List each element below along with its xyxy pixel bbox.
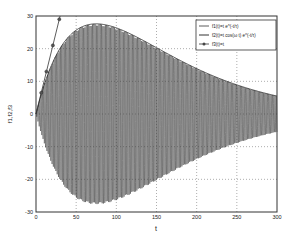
y-tick-label: 0	[30, 111, 33, 117]
f3-marker	[40, 91, 43, 94]
legend-label-f3: f3(t)=t	[212, 42, 225, 47]
x-tick-label: 150	[152, 214, 161, 220]
y-tick-label: 10	[27, 78, 33, 84]
legend-label-f2: f2(t)=t cos(ω t) e^(-t/τ)	[212, 33, 256, 38]
legend: f1(t)=t e^(-t/τ) f2(t)=t cos(ω t) e^(-t/…	[196, 20, 276, 50]
y-tick-label: -30	[25, 209, 33, 215]
f3-marker	[51, 44, 54, 47]
y-tick-label: -10	[25, 144, 33, 150]
chart: 050100150200250300-30-20-100102030 t f1,…	[0, 0, 297, 234]
x-tick-label: 200	[192, 214, 201, 220]
x-tick-label: 300	[272, 214, 281, 220]
x-tick-label: 50	[73, 214, 79, 220]
series-f2	[36, 24, 277, 204]
f3-marker	[45, 70, 48, 73]
f3-marker	[58, 18, 61, 21]
y-tick-label: 20	[27, 46, 33, 52]
legend-label-f1: f1(t)=t e^(-t/τ)	[212, 24, 239, 29]
x-tick-label: 0	[34, 214, 37, 220]
y-tick-label: -20	[25, 176, 33, 182]
y-axis-label: f1,f2,f3	[7, 104, 13, 123]
y-tick-label: 30	[27, 13, 33, 19]
x-axis-label: t	[155, 225, 157, 232]
x-tick-label: 250	[232, 214, 241, 220]
legend-marker-f3	[203, 43, 206, 46]
x-tick-label: 100	[112, 214, 121, 220]
